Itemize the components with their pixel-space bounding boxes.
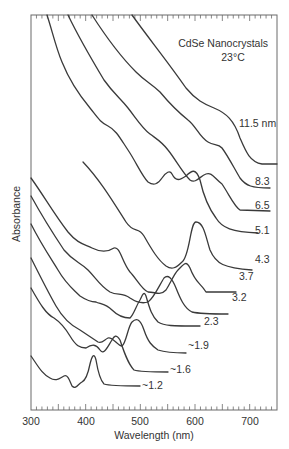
- spectra-curves: [31, 15, 277, 387]
- absorbance-chart: 11.5 nm 8.3 6.5 5.1 4.3 3.7 3.2 2.3 ~1.9…: [0, 0, 289, 449]
- curve-1.2: [31, 356, 140, 388]
- x-tick-700: 700: [241, 415, 259, 427]
- label-8.3: 8.3: [255, 175, 270, 187]
- x-tick-400: 400: [77, 415, 95, 427]
- label-4.3: 4.3: [255, 253, 270, 265]
- x-tick-300: 300: [22, 415, 40, 427]
- label-5.1: 5.1: [255, 224, 270, 236]
- y-axis-label: Absorbance: [10, 186, 22, 242]
- label-3.7: 3.7: [239, 270, 254, 282]
- curve-3.2: [31, 196, 228, 314]
- x-ticks: [36, 15, 271, 410]
- x-tick-500: 500: [131, 415, 149, 427]
- label-2.3: 2.3: [204, 315, 219, 327]
- label-11.5nm: 11.5 nm: [239, 117, 276, 129]
- x-tick-labels: 300 400 500 600 700: [22, 415, 259, 427]
- label-1.2: ~1.2: [142, 379, 163, 391]
- curve-1.9: [31, 258, 186, 353]
- chart-subtitle: 23°C: [221, 51, 245, 63]
- x-axis-label: Wavelength (nm): [114, 429, 194, 441]
- chart-title: CdSe Nanocrystals: [178, 37, 268, 49]
- label-1.9: ~1.9: [188, 339, 209, 351]
- curve-4.3: [83, 162, 252, 270]
- label-6.5: 6.5: [255, 199, 270, 211]
- x-tick-600: 600: [186, 415, 204, 427]
- curve-labels: 11.5 nm 8.3 6.5 5.1 4.3 3.7 3.2 2.3 ~1.9…: [142, 117, 276, 391]
- label-1.6: ~1.6: [170, 363, 191, 375]
- label-3.2: 3.2: [232, 291, 247, 303]
